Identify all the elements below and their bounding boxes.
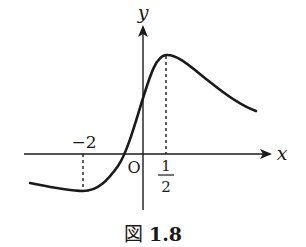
- caption-number: 1.8: [149, 223, 182, 245]
- tick-label-half-denominator: 2: [161, 178, 171, 196]
- caption-prefix: 図: [124, 223, 143, 245]
- figure-1-8: y x −2 O 1 2 図1.8: [0, 0, 306, 247]
- tick-label-minus-two: −2: [71, 132, 96, 152]
- function-graph: y x −2 O 1 2: [0, 0, 306, 247]
- origin-label: O: [127, 158, 140, 177]
- figure-caption: 図1.8: [0, 219, 306, 246]
- tick-label-half-numerator: 1: [161, 157, 171, 175]
- x-axis-label: x: [277, 142, 288, 164]
- y-axis-label: y: [137, 1, 149, 23]
